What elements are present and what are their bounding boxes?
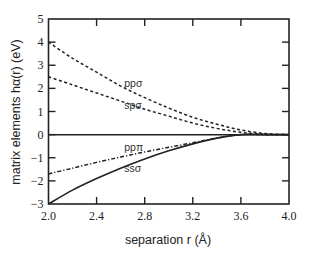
y-tick-label: 4 [38,35,44,49]
y-tick-label: 5 [38,12,44,26]
x-axis-label: separation r (Å) [125,232,211,247]
x-tick-labels: 2.02.42.83.23.64.0 [41,209,297,223]
y-tick-label: 1 [38,105,44,119]
y-tick-label: −2 [31,174,44,188]
curve-labels: ppσspσppπssσ [124,77,143,173]
axis-ticks [49,19,290,204]
series-line [49,77,290,135]
y-tick-label: 0 [38,128,44,142]
x-tick-label: 2.4 [89,209,104,223]
series-line [49,134,290,174]
x-tick-label: 2.8 [137,209,152,223]
x-tick-label: 2.0 [41,209,56,223]
curve-label: ssσ [124,162,142,174]
plot-frame [49,19,290,204]
y-tick-labels: −3−2−1012345 [31,12,44,211]
y-tick-label: −1 [31,151,44,165]
y-axis-label: matrix elements hα(r) (eV) [9,39,23,184]
series-line [49,134,290,204]
curve-label: ppπ [124,141,143,153]
x-tick-label: 3.2 [185,209,200,223]
chart: 2.02.42.83.23.64.0 −3−2−1012345 ppσspσpp… [0,0,311,259]
x-tick-label: 3.6 [233,209,248,223]
curves [49,42,290,204]
y-tick-label: 2 [38,81,44,95]
series-line [49,42,290,135]
plot-area [49,19,290,204]
x-tick-label: 4.0 [282,209,297,223]
y-tick-label: −3 [31,197,44,211]
y-tick-label: 3 [38,58,44,72]
curve-label: ppσ [124,77,143,89]
curve-label: spσ [124,99,142,111]
